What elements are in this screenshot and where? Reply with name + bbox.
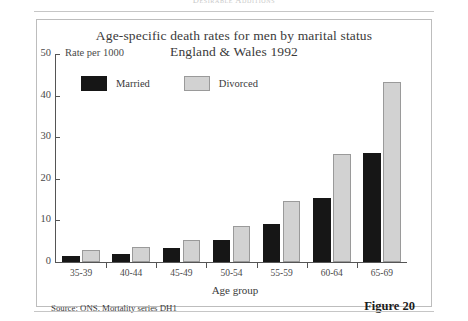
bar-group xyxy=(163,50,201,262)
x-tick xyxy=(357,263,358,268)
bar-married-60-64 xyxy=(313,198,331,262)
x-tick-label-55-59: 55-59 xyxy=(271,268,293,278)
footer-divider xyxy=(34,311,434,312)
x-axis-title: Age group xyxy=(37,284,433,296)
x-tick-label-35-39: 35-39 xyxy=(70,268,92,278)
running-header-text: Desirable Additions xyxy=(0,0,468,5)
x-tick-label-45-49: 45-49 xyxy=(170,268,192,278)
running-header: Desirable Additions xyxy=(0,0,468,9)
header-divider xyxy=(34,11,434,12)
bar-divorced-55-59 xyxy=(283,201,301,262)
bar-divorced-65-69 xyxy=(383,82,401,262)
x-tick-label-50-54: 50-54 xyxy=(220,268,242,278)
x-tick xyxy=(206,263,207,268)
chart-title-line1: Age-specific death rates for men by mari… xyxy=(96,28,372,43)
figure-frame: Age-specific death rates for men by mari… xyxy=(36,19,432,307)
x-tick-label-65-69: 65-69 xyxy=(371,268,393,278)
y-tick-label-30: 30 xyxy=(41,130,52,141)
y-tick-label-40: 40 xyxy=(41,89,52,100)
x-tick xyxy=(257,263,258,268)
y-tick-label-20: 20 xyxy=(41,172,52,183)
bar-divorced-45-49 xyxy=(183,240,201,262)
bar-group xyxy=(313,50,351,262)
bars-layer xyxy=(56,50,407,262)
plot-area: Rate per 1000 50 40 30 20 10 0 Married D… xyxy=(55,50,415,282)
y-tick-label-50: 50 xyxy=(41,47,52,58)
bar-married-50-54 xyxy=(213,240,231,262)
bar-divorced-35-39 xyxy=(82,250,100,262)
x-tick xyxy=(156,263,157,268)
bar-married-40-44 xyxy=(112,254,130,262)
bar-group xyxy=(62,50,100,262)
bar-divorced-60-64 xyxy=(333,154,351,262)
bar-married-65-69 xyxy=(363,153,381,262)
bar-married-35-39 xyxy=(62,256,80,262)
y-tick-label-0: 0 xyxy=(46,255,51,266)
bar-married-55-59 xyxy=(263,224,281,262)
x-tick-label-40-44: 40-44 xyxy=(120,268,142,278)
bar-group xyxy=(263,50,301,262)
bar-divorced-50-54 xyxy=(233,226,251,262)
y-tick-0: 0 xyxy=(55,262,60,263)
x-tick-label-60-64: 60-64 xyxy=(321,268,343,278)
x-axis xyxy=(55,262,407,263)
x-tick xyxy=(307,263,308,268)
y-tick-label-10: 10 xyxy=(41,213,52,224)
bar-married-45-49 xyxy=(163,248,181,262)
bar-group xyxy=(112,50,150,262)
bar-divorced-40-44 xyxy=(132,247,150,262)
x-tick xyxy=(106,263,107,268)
bar-group xyxy=(363,50,401,262)
bar-group xyxy=(213,50,251,262)
